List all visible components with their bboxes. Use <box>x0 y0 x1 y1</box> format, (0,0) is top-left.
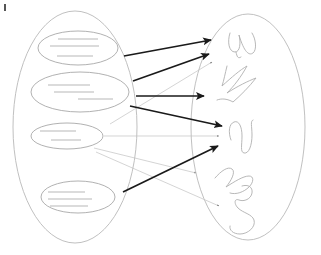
document-item-4[interactable] <box>41 181 115 213</box>
n-curve-squiggle[interactable] <box>229 120 253 153</box>
document-item-3-outline <box>31 123 103 149</box>
strong-arrows-group <box>123 40 222 192</box>
wave-squiggle[interactable] <box>215 168 253 194</box>
document-item-1[interactable] <box>38 31 118 65</box>
diagram-canvas <box>0 0 321 255</box>
mapping-arrow-5[interactable] <box>123 146 218 192</box>
document-item-4-outline <box>41 181 115 213</box>
right-set-group <box>191 14 305 240</box>
weak-arrows-group <box>94 62 219 206</box>
left-set-group <box>13 11 137 243</box>
weak-mapping-arrow-3[interactable] <box>94 148 196 173</box>
double-loop-squiggle[interactable] <box>229 33 256 58</box>
zigzag-squiggle[interactable] <box>217 66 256 102</box>
document-item-1-outline <box>38 31 118 65</box>
weak-mapping-arrow-4[interactable] <box>96 152 219 206</box>
document-item-3[interactable] <box>31 123 103 149</box>
set-mapping-diagram <box>0 0 321 255</box>
document-item-2[interactable] <box>31 72 129 112</box>
s-curl-squiggle[interactable] <box>230 185 254 234</box>
mapping-arrow-2[interactable] <box>133 54 209 81</box>
mapping-arrow-1[interactable] <box>124 40 211 56</box>
mapping-arrow-4[interactable] <box>130 106 222 126</box>
right-set-outline <box>191 14 305 240</box>
